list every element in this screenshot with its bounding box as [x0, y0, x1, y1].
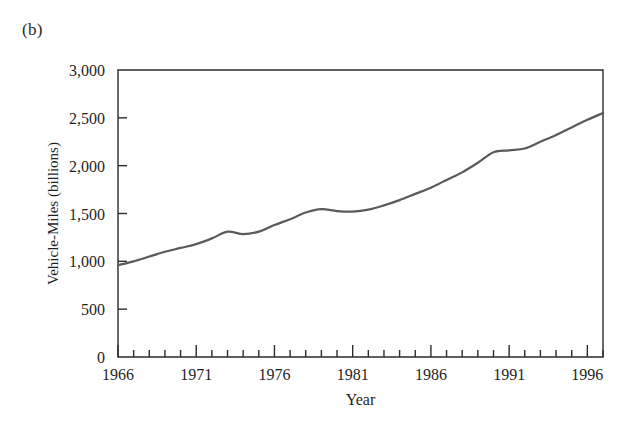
x-tick-label: 1966	[102, 366, 134, 383]
y-tick-label: 3,000	[69, 62, 105, 79]
y-tick-label: 1,000	[69, 253, 105, 270]
y-tick-label: 2,500	[69, 110, 105, 127]
x-tick-label: 1986	[415, 366, 447, 383]
plot-frame	[118, 70, 603, 357]
x-tick-label: 1996	[571, 366, 603, 383]
y-tick-label: 2,000	[69, 158, 105, 175]
line-chart-plot: 05001,0001,5002,0002,5003,000 1966197119…	[0, 0, 629, 427]
y-tick-label: 0	[97, 349, 105, 366]
x-tick-label: 1976	[258, 366, 290, 383]
y-tick-label: 500	[81, 301, 105, 318]
x-tick-label: 1981	[337, 366, 369, 383]
x-tick-label: 1991	[493, 366, 525, 383]
y-tick-label: 1,500	[69, 206, 105, 223]
x-tick-label: 1971	[180, 366, 212, 383]
x-axis-ticks: 1966197119761981198619911996	[102, 345, 603, 383]
data-series-line	[118, 113, 603, 265]
figure-panel-b: (b) Vehicle-Miles (billions) Year 05001,…	[0, 0, 629, 427]
